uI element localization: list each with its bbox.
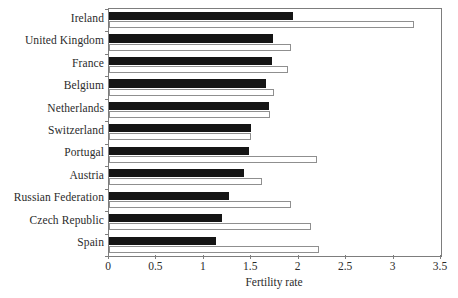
x-axis-tick: [155, 255, 156, 259]
bar-group: [109, 189, 441, 211]
bar-group: [109, 166, 441, 188]
x-axis-tick-label: 0: [105, 260, 111, 273]
x-axis-tick-label: 0.5: [148, 260, 162, 273]
y-axis-tick: [105, 166, 109, 167]
x-axis-tick: [345, 255, 346, 259]
bar-group: [109, 234, 441, 256]
y-axis-tick: [105, 121, 109, 122]
x-axis-tick: [108, 255, 109, 259]
bar-light: [109, 156, 317, 163]
x-axis-tick: [393, 255, 394, 259]
bar-group: [109, 31, 441, 53]
bar-group: [109, 9, 441, 31]
fertility-rate-bar-chart: IrelandUnited KingdomFranceBelgiumNether…: [0, 0, 458, 298]
bar-light: [109, 178, 262, 185]
bar-group: [109, 76, 441, 98]
x-axis-tick: [440, 255, 441, 259]
x-axis-tick-label: 2.5: [338, 260, 352, 273]
bar-light: [109, 246, 319, 253]
bar-dark: [109, 214, 222, 222]
category-label-netherlands: Netherlands: [0, 102, 104, 114]
category-label-austria: Austria: [0, 169, 104, 181]
x-axis-tick-label: 3.5: [433, 260, 447, 273]
bar-dark: [109, 169, 244, 177]
bar-group: [109, 99, 441, 121]
y-axis-tick: [105, 211, 109, 212]
bar-dark: [109, 237, 216, 245]
x-axis-tick-label: 2: [295, 260, 301, 273]
x-axis-tick-label: 1.5: [243, 260, 257, 273]
bar-light: [109, 66, 288, 73]
x-axis-tick-label: 3: [390, 260, 396, 273]
y-axis-tick: [105, 99, 109, 100]
category-label-portugal: Portugal: [0, 146, 104, 158]
x-axis-tick: [203, 255, 204, 259]
bar-dark: [109, 79, 266, 87]
plot-area: [108, 8, 442, 257]
y-axis-tick: [105, 31, 109, 32]
bar-dark: [109, 57, 272, 65]
bar-group: [109, 144, 441, 166]
bars-layer: [109, 9, 441, 256]
category-label-russian-federation: Russian Federation: [0, 191, 104, 203]
bar-group: [109, 54, 441, 76]
bar-dark: [109, 34, 273, 42]
bar-dark: [109, 102, 269, 110]
y-axis-tick: [105, 189, 109, 190]
category-label-france: France: [0, 57, 104, 69]
bar-dark: [109, 124, 251, 132]
x-axis-tick: [250, 255, 251, 259]
bar-light: [109, 201, 291, 208]
bar-light: [109, 111, 270, 118]
y-axis-tick: [105, 234, 109, 235]
category-label-czech-republic: Czech Republic: [0, 214, 104, 226]
y-axis-tick: [105, 144, 109, 145]
category-label-switzerland: Switzerland: [0, 124, 104, 136]
bar-light: [109, 21, 414, 28]
category-label-ireland: Ireland: [0, 12, 104, 24]
bar-group: [109, 211, 441, 233]
bar-light: [109, 133, 251, 140]
bar-light: [109, 89, 274, 96]
category-axis: IrelandUnited KingdomFranceBelgiumNether…: [0, 8, 104, 255]
y-axis-tick: [105, 54, 109, 55]
x-axis-title: Fertility rate: [108, 276, 440, 289]
category-label-united-kingdom: United Kingdom: [0, 34, 104, 46]
x-axis-tick-label: 1: [200, 260, 206, 273]
bar-dark: [109, 12, 293, 20]
category-label-spain: Spain: [0, 236, 104, 248]
bar-dark: [109, 147, 249, 155]
bar-dark: [109, 192, 229, 200]
x-axis-tick: [298, 255, 299, 259]
y-axis-tick: [105, 76, 109, 77]
y-axis-tick: [105, 9, 109, 10]
bar-light: [109, 223, 311, 230]
category-label-belgium: Belgium: [0, 79, 104, 91]
bar-group: [109, 121, 441, 143]
bar-light: [109, 44, 291, 51]
